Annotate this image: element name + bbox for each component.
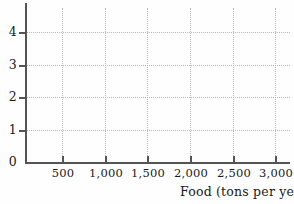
x-tick-label-500: 500 bbox=[39, 168, 87, 180]
x-tick-500 bbox=[62, 156, 64, 163]
x-tick-2000 bbox=[190, 156, 192, 163]
x-axis-title: Food (tons per year) bbox=[180, 184, 294, 199]
gridline-vertical-2500 bbox=[233, 8, 234, 162]
x-tick-label-3000: 3,000 bbox=[252, 168, 294, 180]
y-tick-1 bbox=[19, 130, 26, 132]
y-tick-label-3: 3 bbox=[1, 59, 17, 72]
y-tick-2 bbox=[19, 97, 26, 99]
x-tick-1500 bbox=[147, 156, 149, 163]
y-tick-4 bbox=[19, 32, 26, 34]
y-tick-label-1: 1 bbox=[1, 124, 17, 137]
chart-container: 4 3 2 1 0 500 1,000 1,500 2,000 2,500 3,… bbox=[0, 0, 294, 204]
gridline-horizontal-3 bbox=[26, 65, 290, 66]
x-tick-2500 bbox=[233, 156, 235, 163]
y-tick-label-2: 2 bbox=[1, 91, 17, 104]
gridline-horizontal-1 bbox=[26, 130, 290, 131]
gridline-vertical-1000 bbox=[105, 8, 106, 162]
y-tick-label-0: 0 bbox=[1, 156, 17, 169]
gridline-vertical-2000 bbox=[190, 8, 191, 162]
gridline-horizontal-4 bbox=[26, 32, 290, 33]
x-tick-3000 bbox=[275, 156, 277, 163]
gridline-vertical-3000 bbox=[275, 8, 276, 162]
gridline-vertical-500 bbox=[62, 8, 63, 162]
y-axis-line bbox=[25, 3, 27, 164]
gridline-vertical-1500 bbox=[147, 8, 148, 162]
y-tick-3 bbox=[19, 65, 26, 67]
y-tick-label-4: 4 bbox=[1, 26, 17, 39]
x-tick-label-2000: 2,000 bbox=[167, 168, 215, 180]
x-tick-label-1500: 1,500 bbox=[124, 168, 172, 180]
x-tick-label-1000: 1,000 bbox=[82, 168, 130, 180]
x-axis-line bbox=[25, 162, 290, 164]
gridline-horizontal-2 bbox=[26, 97, 290, 98]
x-tick-label-2500: 2,500 bbox=[210, 168, 258, 180]
x-tick-1000 bbox=[105, 156, 107, 163]
